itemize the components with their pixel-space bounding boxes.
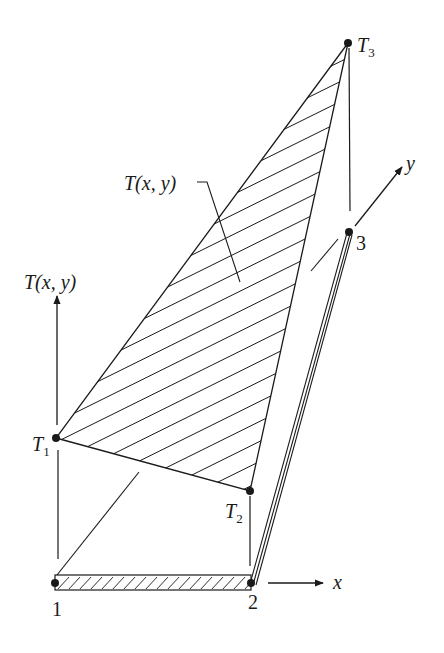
x-axis-label: x xyxy=(332,571,342,593)
surface-outline xyxy=(56,43,348,491)
y-axis-arrow xyxy=(355,167,402,226)
edge-1-3-partial xyxy=(57,472,139,575)
edge-2-3-a xyxy=(250,233,347,584)
t3-point xyxy=(344,39,352,47)
t1-label: T1 xyxy=(32,433,50,459)
t1-point xyxy=(52,434,60,442)
node3-point xyxy=(345,228,353,236)
t3-label: T3 xyxy=(357,34,375,60)
base-element xyxy=(55,233,352,590)
node2-label: 2 xyxy=(248,591,258,613)
t3-vertical-line xyxy=(349,48,350,211)
edge-1-2 xyxy=(55,575,251,590)
edge-2-3-c xyxy=(256,235,352,585)
node2-point xyxy=(247,579,255,587)
vertical-axis-label: T(x, y) xyxy=(24,271,77,294)
t2-label: T2 xyxy=(225,500,243,526)
surface-label: T(x, y) xyxy=(124,172,177,195)
t2-point xyxy=(246,487,254,495)
y-axis-tail xyxy=(311,239,338,271)
y-axis-label: y xyxy=(404,152,415,175)
node1-label: 1 xyxy=(52,598,62,620)
node1-point xyxy=(51,579,59,587)
node3-label: 3 xyxy=(356,232,366,254)
triangular-element-diagram: T3 T(x, y) T(x, y) T1 T2 3 1 2 x y xyxy=(0,0,444,653)
temperature-surface xyxy=(0,12,400,610)
